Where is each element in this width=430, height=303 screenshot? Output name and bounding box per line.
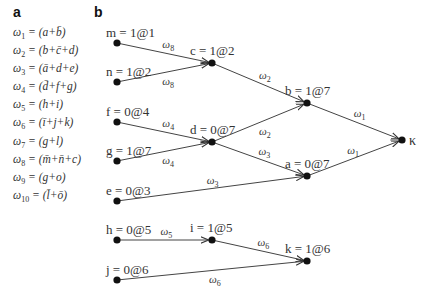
edge-weight-label: ω6 — [257, 236, 269, 251]
edge-weight-label: ω3 — [207, 174, 219, 189]
node-d-dot — [208, 138, 215, 145]
node-f-label: f = 0@4 — [106, 104, 150, 119]
edge-weight-label: ω1 — [347, 144, 359, 159]
node-b-dot — [303, 99, 310, 106]
node-g-label: g = 1@7 — [106, 143, 152, 158]
node-k-dot — [303, 257, 310, 264]
node-f-dot — [113, 118, 120, 125]
implication-graph: ω8ω8ω4ω4ω2ω2ω3ω3ω1ω1ω5ω6ω6 m = 1@1n = 1@… — [0, 0, 430, 303]
node-e-label: e = 0@3 — [106, 183, 151, 198]
edge-weight-label: ω1 — [354, 107, 366, 122]
node-c-dot — [208, 59, 215, 66]
node-h-label: h = 0@5 — [106, 222, 151, 237]
node-a-dot — [303, 172, 310, 179]
edge-weight-label: ω6 — [209, 273, 221, 288]
edge-b-kappa — [307, 103, 398, 139]
node-n-dot — [113, 78, 120, 85]
edge-weight-label: ω8 — [162, 75, 174, 90]
edge-weight-label: ω5 — [161, 225, 173, 240]
node-kappa-dot — [398, 136, 405, 143]
edge-weight-label: ω2 — [259, 69, 271, 84]
node-h-dot — [113, 236, 120, 243]
edge-group: ω8ω8ω4ω4ω2ω2ω3ω3ω1ω1ω5ω6ω6 — [117, 38, 398, 288]
node-d-label: d = 0@7 — [190, 122, 236, 137]
node-k-label: k = 1@6 — [285, 241, 331, 256]
node-m-label: m = 1@1 — [106, 25, 155, 40]
node-j-label: j = 0@6 — [105, 262, 149, 277]
node-b-label: b = 1@7 — [285, 83, 331, 98]
node-e-dot — [113, 197, 120, 204]
node-m-dot — [113, 39, 120, 46]
edge-weight-label: ω4 — [162, 154, 174, 169]
edge-weight-label: ω8 — [162, 38, 174, 53]
node-i-label: i = 1@5 — [190, 220, 232, 235]
node-kappa-label: κ — [409, 133, 416, 148]
node-i-dot — [208, 236, 215, 243]
node-a-label: a = 0@7 — [285, 156, 330, 171]
node-j-dot — [113, 276, 120, 283]
node-g-dot — [113, 157, 120, 164]
edge-weight-label: ω3 — [259, 145, 271, 160]
node-c-label: c = 1@2 — [190, 43, 235, 58]
edge-weight-label: ω4 — [162, 117, 174, 132]
edge-weight-label: ω2 — [259, 125, 271, 140]
node-n-label: n = 1@2 — [106, 64, 151, 79]
